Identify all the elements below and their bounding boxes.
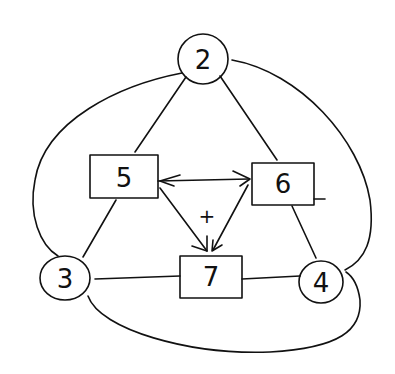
node-4[interactable]: 4 xyxy=(299,261,343,303)
node-3[interactable]: 3 xyxy=(40,256,90,300)
diagram-canvas: 2 3 4 5 6 7 + xyxy=(0,0,395,374)
node-4-label: 4 xyxy=(313,268,330,298)
edge-5-6 xyxy=(158,179,249,181)
node-5[interactable]: 5 xyxy=(90,155,158,198)
edge-6-7 xyxy=(213,185,248,250)
node-2-label: 2 xyxy=(195,45,212,75)
edge-7-4 xyxy=(242,276,300,279)
node-2[interactable]: 2 xyxy=(178,34,228,84)
edge-6-4 xyxy=(292,206,316,258)
edge-2-4 xyxy=(232,60,371,270)
node-7[interactable]: 7 xyxy=(180,256,242,298)
edge-3-7 xyxy=(95,276,180,279)
edge-2-5 xyxy=(135,77,186,152)
edge-5-3 xyxy=(83,200,116,257)
edge-2-3 xyxy=(33,73,182,256)
node-6-label: 6 xyxy=(275,169,292,199)
node-6[interactable]: 6 xyxy=(252,163,325,205)
node-7-label: 7 xyxy=(203,262,220,292)
plus-sign-annotation: + xyxy=(199,204,216,228)
edge-2-6 xyxy=(220,76,277,160)
node-3-label: 3 xyxy=(57,264,74,294)
node-5-label: 5 xyxy=(116,163,133,193)
